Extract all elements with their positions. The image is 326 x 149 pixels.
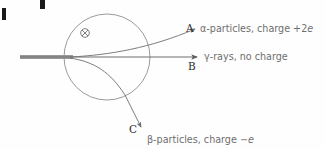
beta-particle-trajectory xyxy=(70,58,141,127)
alpha-description-text: α-particles, charge +2 xyxy=(200,23,307,34)
path-label-c: C xyxy=(129,123,137,135)
gamma-description-text: γ-rays, no charge xyxy=(204,51,288,62)
gamma-description: γ-rays, no charge xyxy=(204,51,288,62)
path-label-b: B xyxy=(188,60,196,72)
radiation-deflection-diagram: A B C α-particles, charge +2e γ-rays, no… xyxy=(0,0,326,149)
path-label-a: A xyxy=(185,22,194,34)
beta-charge-unit: e xyxy=(248,134,254,145)
beta-description: β-particles, charge −e xyxy=(147,134,254,145)
alpha-description: α-particles, charge +2e xyxy=(200,23,313,34)
field-into-page-symbol xyxy=(81,29,90,38)
alpha-particle-trajectory xyxy=(70,29,195,57)
alpha-charge-unit: e xyxy=(307,23,313,34)
figure-canvas: A B C α-particles, charge +2e γ-rays, no… xyxy=(0,0,326,149)
beta-description-text: β-particles, charge − xyxy=(147,134,248,145)
